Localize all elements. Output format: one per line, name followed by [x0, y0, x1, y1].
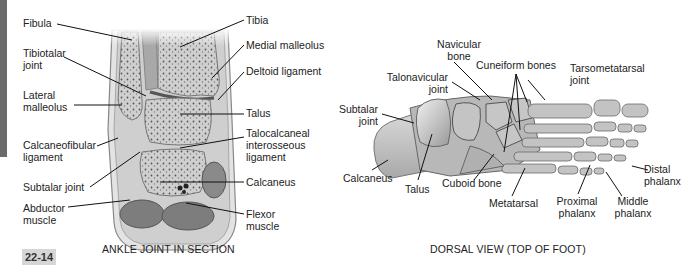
label-subtalar-joint-dorsal: Subtalarjoint — [330, 103, 378, 127]
label-line: phalanx — [644, 175, 681, 187]
label-subtalar-joint: Subtalar joint — [23, 181, 84, 193]
label-line: interosseous — [246, 139, 306, 151]
label-line: Calcaneofibular — [23, 139, 96, 151]
label-line: ligament — [246, 151, 286, 163]
label-cuneiform-bones: Cuneiform bones — [476, 59, 556, 71]
label-proximal-phalanx: Proximalphalanx — [550, 195, 604, 219]
leader-lines — [0, 0, 698, 276]
label-line: phalanx — [559, 207, 596, 219]
label-line: muscle — [246, 220, 279, 232]
label-line: Navicular — [437, 38, 481, 50]
label-line: Middle — [618, 195, 649, 207]
label-line: Lateral — [23, 89, 55, 101]
label-abductor-muscle: Abductormuscle — [23, 202, 65, 226]
label-medial-malleolus: Medial malleolus — [246, 39, 324, 51]
label-tibia: Tibia — [246, 14, 268, 26]
label-line: joint — [23, 59, 42, 71]
label-line: Tarsometatarsal — [570, 62, 645, 74]
label-line: Flexor — [246, 208, 275, 220]
figure-number-badge: 22-14 — [22, 249, 56, 265]
label-line: Proximal — [557, 195, 598, 207]
label-flexor-muscle: Flexormuscle — [246, 208, 279, 232]
label-metatarsal: Metatarsal — [489, 197, 538, 209]
label-calcaneus-dorsal: Calcaneus — [343, 172, 393, 184]
label-line: Distal — [644, 163, 670, 175]
label-talocalcaneal-interosseous-ligament: Talocalcanealinterosseousligament — [246, 127, 310, 163]
label-calcaneus: Calcaneus — [246, 176, 296, 188]
label-line: malleolus — [23, 101, 67, 113]
label-calcaneofibular-ligament: Calcaneofibularligament — [23, 139, 96, 163]
label-line: bone — [447, 50, 470, 62]
caption-dorsal-view: DORSAL VIEW (TOP OF FOOT) — [430, 243, 586, 255]
label-talus: Talus — [246, 107, 271, 119]
label-line: Tibiotalar — [23, 47, 66, 59]
label-distal-phalanx: Distalphalanx — [644, 163, 681, 187]
caption-ankle-joint-in-section: ANKLE JOINT IN SECTION — [102, 243, 235, 255]
label-line: Subtalar — [339, 103, 378, 115]
label-line: joint — [429, 83, 448, 95]
label-line: Talocalcaneal — [246, 127, 310, 139]
label-tibiotalar-joint: Tibiotalarjoint — [23, 47, 66, 71]
label-line: Abductor — [23, 202, 65, 214]
label-talus-dorsal: Talus — [405, 183, 430, 195]
label-line: joint — [359, 115, 378, 127]
label-line: muscle — [23, 214, 56, 226]
label-middle-phalanx: Middlephalanx — [610, 195, 656, 219]
label-deltoid-ligament: Deltoid ligament — [246, 65, 321, 77]
label-fibula: Fibula — [23, 17, 52, 29]
label-line: joint — [570, 74, 589, 86]
label-line: phalanx — [615, 207, 652, 219]
label-cuboid-bone: Cuboid bone — [442, 177, 502, 189]
label-line: ligament — [23, 151, 63, 163]
label-talonavicular-joint: Talonavicularjoint — [378, 71, 448, 95]
label-line: Talonavicular — [387, 71, 448, 83]
label-tarsometatarsal-joint: Tarsometatarsaljoint — [570, 62, 645, 86]
label-lateral-malleolus: Lateralmalleolus — [23, 89, 67, 113]
